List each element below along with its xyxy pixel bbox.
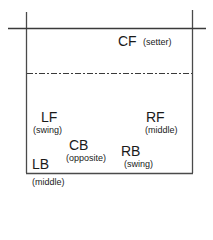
player-lf-label: LF (41, 110, 57, 124)
player-rb-role: (swing) (124, 160, 153, 169)
player-cb-label: CB (69, 138, 88, 152)
player-cf-role: (setter) (143, 38, 172, 47)
player-lf-role: (swing) (33, 126, 62, 135)
player-rf-role: (middle) (145, 126, 178, 135)
player-cf-label: CF (118, 34, 137, 48)
player-lb-role: (middle) (32, 178, 65, 187)
player-cb-role: (opposite) (66, 154, 106, 163)
player-rb-label: RB (121, 144, 140, 158)
player-lb-label: LB (32, 157, 49, 171)
player-rf-label: RF (146, 110, 165, 124)
